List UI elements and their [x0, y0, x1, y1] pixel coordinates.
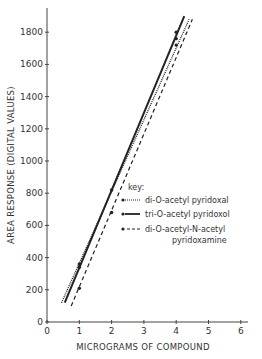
y-ticks: 020040060080010001200140016001800 — [20, 27, 49, 327]
dot-marker-icon — [121, 212, 124, 215]
axes: 0123456 02004006008001000120014001600180… — [20, 8, 248, 336]
y-tick-label: 1400 — [20, 92, 43, 102]
y-axis-title: AREA RESPONSE (DIGITAL VALUES) — [6, 86, 16, 244]
series-line — [62, 19, 190, 302]
legend-title: key: — [128, 183, 144, 192]
data-point — [78, 266, 81, 269]
y-tick-label: 0 — [37, 317, 43, 327]
series-line — [65, 16, 185, 303]
data-point — [110, 211, 113, 214]
x-tick-label: 5 — [206, 326, 212, 336]
dot-marker-icon — [121, 198, 124, 201]
y-tick-label: 800 — [26, 188, 43, 198]
data-point — [78, 286, 81, 289]
legend-label: di-O-acetyl pyridoxal — [145, 196, 229, 205]
legend-label: di-O-acetyl-N-acetyl — [145, 225, 225, 234]
data-point — [175, 43, 178, 46]
legend-label: tri-O-acetyl pyridoxol — [145, 210, 230, 219]
series-dashed — [71, 19, 192, 306]
legend: key: di-O-acetyl pyridoxal tri-O-acetyl … — [121, 183, 229, 245]
y-tick-label: 600 — [26, 220, 43, 230]
series-solid — [65, 16, 185, 303]
x-axis-title: MICROGRAMS OF COMPOUND — [76, 342, 210, 352]
x-tick-label: 3 — [141, 326, 147, 336]
legend-item-dashed: di-O-acetyl-N-acetyl pyridoxamine — [121, 225, 226, 245]
data-series — [62, 16, 193, 306]
y-tick-label: 1600 — [20, 59, 43, 69]
y-tick-label: 1200 — [20, 124, 43, 134]
x-tick-label: 0 — [44, 326, 50, 336]
calibration-chart: 0123456 02004006008001000120014001600180… — [0, 0, 262, 359]
series-line — [71, 19, 192, 306]
x-tick-label: 2 — [109, 326, 115, 336]
x-tick-label: 6 — [238, 326, 244, 336]
y-tick-label: 200 — [26, 285, 43, 295]
legend-label-cont: pyridoxamine — [172, 236, 227, 245]
y-tick-label: 400 — [26, 253, 43, 263]
legend-item-dotted: di-O-acetyl pyridoxal — [121, 196, 228, 205]
dot-marker-icon — [121, 227, 124, 230]
x-tick-label: 4 — [173, 326, 179, 336]
y-tick-label: 1000 — [20, 156, 43, 166]
series-dotted — [62, 19, 190, 302]
data-point — [175, 31, 178, 34]
legend-item-solid: tri-O-acetyl pyridoxol — [121, 210, 229, 219]
y-tick-label: 1800 — [20, 27, 43, 37]
x-tick-label: 1 — [76, 326, 82, 336]
data-point — [110, 188, 113, 191]
